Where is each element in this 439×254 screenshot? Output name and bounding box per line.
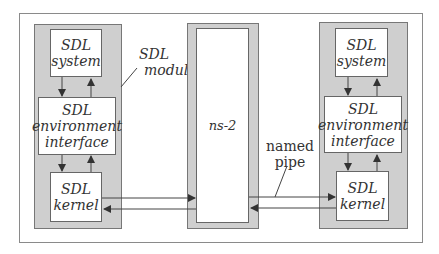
connector-arrows [0, 0, 439, 254]
